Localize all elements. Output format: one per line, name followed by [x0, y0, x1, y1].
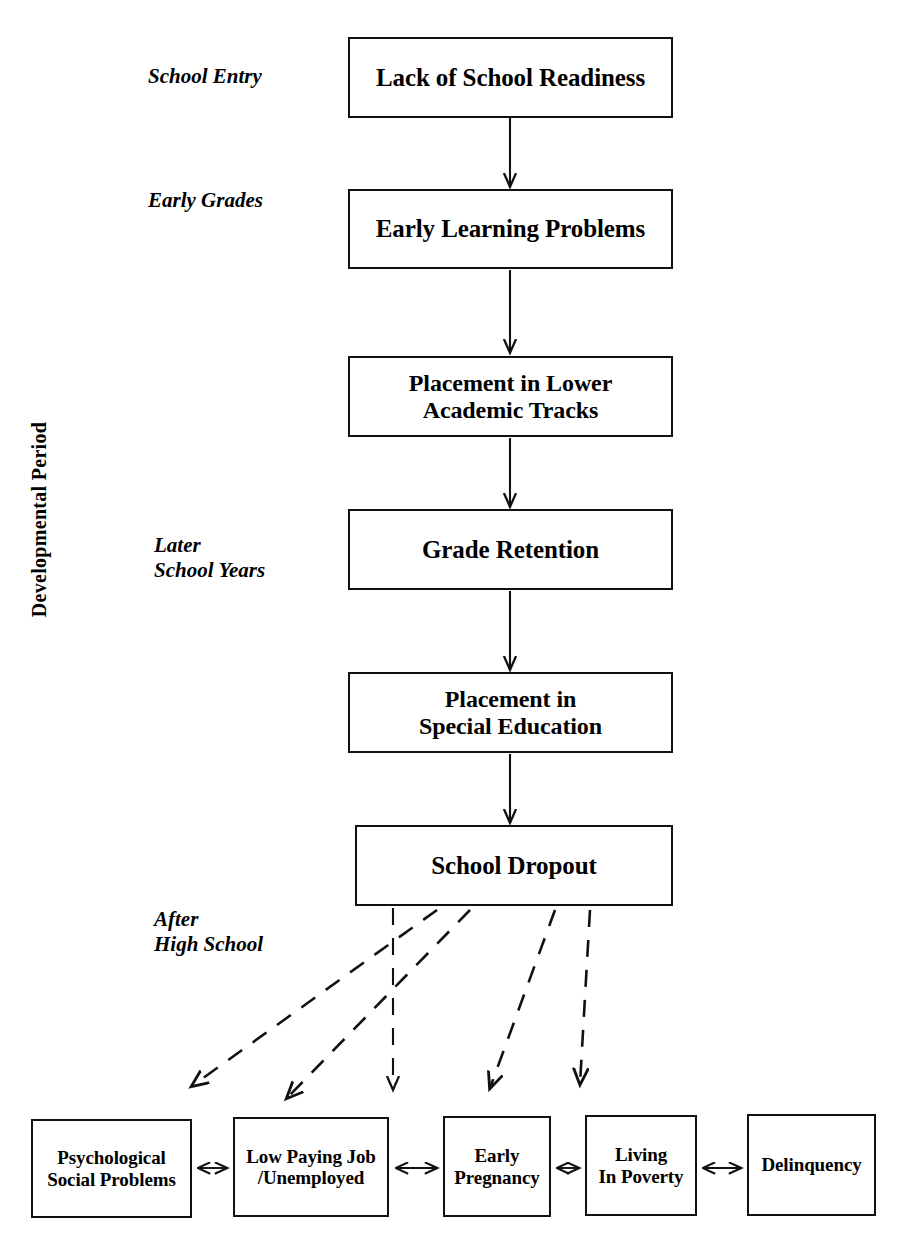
- node-psychological-social-problems[interactable]: Psychological Social Problems: [31, 1119, 192, 1218]
- period-label-school-entry: School Entry: [148, 64, 262, 89]
- node-school-dropout[interactable]: School Dropout: [355, 825, 673, 906]
- node-label: Living In Poverty: [598, 1144, 683, 1187]
- node-early-pregnancy[interactable]: Early Pregnancy: [443, 1116, 551, 1217]
- node-label: Lack of School Readiness: [376, 64, 645, 92]
- edge-dropout-delinquency: [580, 910, 590, 1084]
- node-label: School Dropout: [431, 852, 597, 880]
- node-early-learning-problems[interactable]: Early Learning Problems: [348, 189, 673, 269]
- node-grade-retention[interactable]: Grade Retention: [348, 509, 673, 590]
- edge-dropout-poverty: [490, 910, 555, 1088]
- axis-label-developmental-period: Developmental Period: [28, 395, 51, 645]
- node-living-in-poverty[interactable]: Living In Poverty: [585, 1115, 697, 1216]
- period-label-early-grades: Early Grades: [148, 188, 263, 213]
- node-label: Low Paying Job /Unemployed: [246, 1146, 376, 1189]
- edge-layer: [0, 0, 906, 1237]
- node-label: Early Pregnancy: [454, 1145, 539, 1188]
- node-label: Early Learning Problems: [376, 215, 645, 243]
- node-label: Placement in Lower Academic Tracks: [409, 370, 612, 424]
- node-low-paying-job-unemployed[interactable]: Low Paying Job /Unemployed: [233, 1117, 389, 1217]
- node-label: Grade Retention: [422, 536, 599, 564]
- node-placement-in-special-education[interactable]: Placement in Special Education: [348, 672, 673, 753]
- node-placement-in-lower-academic-tracks[interactable]: Placement in Lower Academic Tracks: [348, 356, 673, 437]
- flowchart-diagram: Developmental Period School Entry Early …: [0, 0, 906, 1237]
- node-delinquency[interactable]: Delinquency: [747, 1114, 876, 1216]
- node-label: Delinquency: [761, 1154, 861, 1175]
- period-label-after-high-school: After High School: [154, 907, 263, 957]
- node-label: Placement in Special Education: [419, 686, 602, 740]
- period-label-later-school-years: Later School Years: [154, 533, 265, 583]
- node-lack-of-school-readiness[interactable]: Lack of School Readiness: [348, 37, 673, 118]
- edge-dropout-lowpay: [287, 910, 470, 1098]
- node-label: Psychological Social Problems: [47, 1147, 176, 1190]
